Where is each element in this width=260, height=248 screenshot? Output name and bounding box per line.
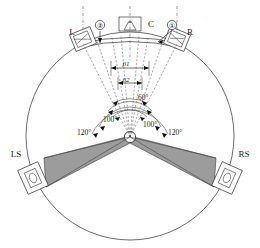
left-surround-coverage-zone xyxy=(44,136,130,187)
callout-one-label: ① xyxy=(169,22,175,30)
callout-two-arrow xyxy=(98,38,102,43)
left-surround-speaker-enclosure xyxy=(18,162,49,195)
arc100-left-arrow xyxy=(100,126,105,131)
beta1-left-arrow xyxy=(111,66,116,70)
callout-two-label: ② xyxy=(97,22,103,30)
left-surround-speaker-label: LS xyxy=(11,149,22,159)
diagram-canvas: ② ① L C R LS RS β1 β2 60° 100° 100° 120°… xyxy=(0,0,260,248)
speaker-placement-diagram: ② ① L C R LS RS β1 β2 60° 100° 100° 120°… xyxy=(0,0,260,248)
arc120-right-arrow xyxy=(162,133,167,138)
surround-outer-right-angle-label: 120° xyxy=(168,128,182,137)
right-surround-speaker-label: RS xyxy=(238,149,249,159)
arc120-left-arrow xyxy=(93,133,98,138)
beta1-label: β1 xyxy=(122,60,130,68)
surround-inner-right-angle-label: 100° xyxy=(143,120,157,129)
right-speaker-label: R xyxy=(187,27,193,37)
beta2-label: β2 xyxy=(122,76,130,84)
left-speaker-label: L xyxy=(69,27,75,37)
right-surround-speaker-enclosure xyxy=(212,162,243,195)
screen-span-angle-label: 60° xyxy=(138,93,149,102)
surround-outer-left-angle-label: 120° xyxy=(77,128,91,137)
arc-beta-inner xyxy=(113,110,147,117)
center-speaker-label: C xyxy=(148,19,154,29)
surround-inner-left-angle-label: 100° xyxy=(103,115,117,124)
right-surround-coverage-zone xyxy=(130,136,216,187)
beta1-right-arrow xyxy=(144,66,149,70)
